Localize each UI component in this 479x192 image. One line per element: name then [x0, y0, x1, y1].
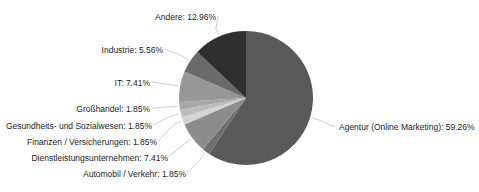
pie-chart — [0, 0, 479, 192]
label-grosshandel: Großhandel: 1.85% — [50, 104, 150, 114]
label-gesundheit: Gesundheits- und Sozialwesen: 1.85% — [0, 121, 152, 131]
label-finanzen: Finanzen / Versicherungen: 1.85% — [20, 137, 157, 147]
label-andere: Andere: 12.96% — [118, 12, 216, 22]
label-agentur: Agentur (Online Marketing): 59.26% — [339, 122, 475, 132]
pie-slices — [179, 31, 313, 165]
label-dienstleistung: Dienstleistungsunternehmen: 7.41% — [30, 153, 168, 163]
label-automobil: Automobil / Verkehr: 1.85% — [80, 169, 186, 179]
label-it: IT: 7.41% — [90, 78, 150, 88]
label-industrie: Industrie: 5.56% — [78, 45, 163, 55]
